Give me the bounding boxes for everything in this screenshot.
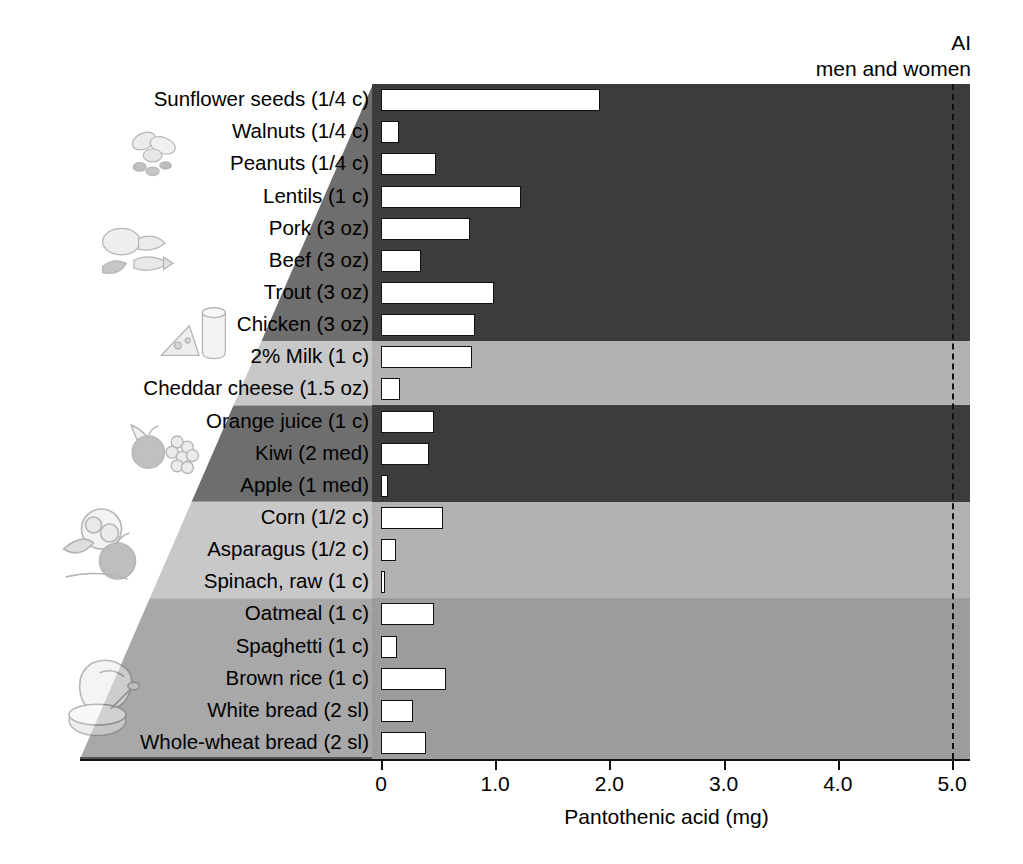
x-tick-label: 0 bbox=[375, 772, 387, 796]
x-tick-label: 2.0 bbox=[595, 772, 624, 796]
nuts-and-seeds-illustration bbox=[108, 118, 203, 190]
x-tick-label: 4.0 bbox=[823, 772, 852, 796]
bar bbox=[381, 282, 494, 304]
x-tick bbox=[724, 759, 726, 770]
vegetables-illustration bbox=[40, 495, 175, 595]
dairy-cheese-milk-illustration bbox=[150, 293, 245, 375]
bar bbox=[381, 346, 472, 368]
category-label: 2% Milk (1 c) bbox=[251, 346, 369, 366]
bar bbox=[381, 314, 475, 336]
meat-poultry-fish-illustration bbox=[62, 215, 212, 293]
bar bbox=[381, 732, 426, 754]
category-label: Sunflower seeds (1/4 c) bbox=[154, 89, 369, 109]
bar bbox=[381, 507, 443, 529]
category-label: Walnuts (1/4 c) bbox=[232, 121, 369, 141]
bar bbox=[381, 250, 421, 272]
category-label: Orange juice (1 c) bbox=[206, 411, 369, 431]
fruit-basket-illustration bbox=[108, 408, 226, 493]
category-label: Whole-wheat bread (2 sl) bbox=[140, 732, 369, 752]
bar bbox=[381, 700, 413, 722]
bar bbox=[381, 218, 470, 240]
ai-reference-sublabel: men and women bbox=[816, 56, 971, 82]
x-tick-label: 1.0 bbox=[481, 772, 510, 796]
category-label: Cheddar cheese (1.5 oz) bbox=[143, 378, 369, 398]
plot-area bbox=[372, 84, 970, 759]
x-tick bbox=[952, 759, 954, 770]
category-label: Asparagus (1/2 c) bbox=[207, 539, 369, 559]
band-vegetables bbox=[372, 502, 970, 598]
grains-bread-cereal-illustration bbox=[42, 650, 172, 745]
ai-reference-label: AI bbox=[951, 30, 971, 56]
bar bbox=[381, 411, 434, 433]
x-tick bbox=[838, 759, 840, 770]
x-tick bbox=[381, 759, 383, 770]
x-tick-label: 5.0 bbox=[937, 772, 966, 796]
band-grains bbox=[372, 598, 970, 759]
bar bbox=[381, 121, 399, 143]
bar bbox=[381, 378, 400, 400]
bar bbox=[381, 539, 396, 561]
bar bbox=[381, 603, 434, 625]
category-label: Spaghetti (1 c) bbox=[236, 636, 369, 656]
band-fruits bbox=[372, 405, 970, 501]
category-label: Oatmeal (1 c) bbox=[245, 603, 369, 623]
bar bbox=[381, 475, 388, 497]
category-label: Lentils (1 c) bbox=[263, 186, 369, 206]
x-axis-title: Pantothenic acid (mg) bbox=[564, 805, 768, 829]
category-label: Spinach, raw (1 c) bbox=[204, 571, 369, 591]
x-tick bbox=[495, 759, 497, 770]
category-label: Chicken (3 oz) bbox=[237, 314, 369, 334]
bar bbox=[381, 153, 436, 175]
bar bbox=[381, 443, 429, 465]
bar bbox=[381, 571, 385, 593]
bar bbox=[381, 186, 521, 208]
x-tick-label: 3.0 bbox=[709, 772, 738, 796]
category-label: Pork (3 oz) bbox=[269, 218, 369, 238]
category-label: Apple (1 med) bbox=[240, 475, 369, 495]
x-axis-line bbox=[80, 759, 970, 761]
category-label: Peanuts (1/4 c) bbox=[230, 153, 369, 173]
ai-reference-line bbox=[952, 84, 954, 759]
bar bbox=[381, 668, 446, 690]
x-tick bbox=[609, 759, 611, 770]
category-label: Beef (3 oz) bbox=[269, 250, 369, 270]
chart-canvas: AI men and women 01.02.03.04.05.0 Pantot… bbox=[0, 0, 1023, 864]
category-label: White bread (2 sl) bbox=[207, 700, 369, 720]
category-label: Corn (1/2 c) bbox=[261, 507, 369, 527]
category-label: Brown rice (1 c) bbox=[225, 668, 369, 688]
category-label: Trout (3 oz) bbox=[264, 282, 369, 302]
bar bbox=[381, 636, 397, 658]
bar bbox=[381, 89, 600, 111]
category-label: Kiwi (2 med) bbox=[255, 443, 369, 463]
